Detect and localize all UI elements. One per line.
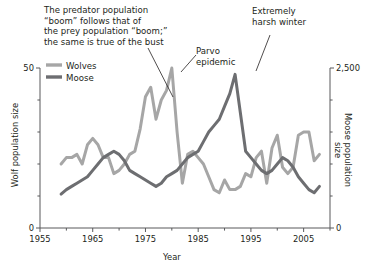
x-tick-label: 1985	[178, 234, 218, 244]
x-axis-title: Year	[163, 252, 181, 262]
legend-item-wolves: Wolves	[66, 61, 97, 71]
x-tick-label: 1995	[231, 234, 271, 244]
chart-figure: The predator population “boom” follows t…	[0, 0, 371, 275]
leader-winter	[256, 35, 270, 71]
y-axis-right-title: Moose population size	[333, 104, 353, 196]
annotation-harsh-winter: Extremely harsh winter	[252, 6, 306, 27]
y-axis-left-title: Wolf population size	[10, 99, 20, 191]
y-tick-label-left: 50	[6, 63, 34, 73]
legend-item-moose: Moose	[66, 73, 94, 83]
y-tick-label-right: 2,500	[336, 63, 370, 73]
y-tick-label-right: 0	[336, 223, 370, 233]
series-line-moose	[61, 74, 319, 194]
annotation-boom: The predator population “boom” follows t…	[44, 5, 167, 47]
y-tick-label-left: 0	[6, 223, 34, 233]
leader-parvo	[181, 55, 196, 72]
series-line-wolves	[61, 68, 319, 193]
x-tick-label: 1975	[125, 234, 165, 244]
x-tick-label: 2005	[284, 234, 324, 244]
axes	[36, 68, 334, 232]
data-series	[61, 68, 319, 194]
annotation-parvo-epidemic: Parvo epidemic	[196, 46, 235, 67]
x-tick-label: 1955	[20, 234, 60, 244]
legend-swatches	[46, 65, 62, 77]
x-tick-label: 1965	[73, 234, 113, 244]
